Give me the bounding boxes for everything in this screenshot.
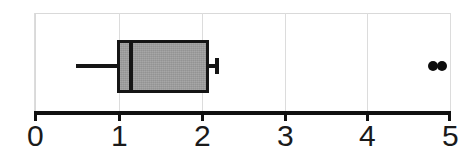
median-line <box>129 40 133 93</box>
x-axis-label-0: 0 <box>15 118 55 154</box>
x-axis-label-4: 4 <box>347 118 387 154</box>
outlier-point <box>437 61 447 71</box>
boxplot-figure: 0 1 2 3 4 5 <box>0 0 471 156</box>
gridline-4 <box>367 13 368 112</box>
x-axis-label-2: 2 <box>182 118 222 154</box>
gridline-0 <box>34 13 35 112</box>
gridline-3 <box>285 13 286 112</box>
x-axis-label-5: 5 <box>430 118 470 154</box>
plot-frame <box>35 13 451 112</box>
whisker-low-line <box>76 64 120 68</box>
x-axis-label-3: 3 <box>265 118 305 154</box>
gridline-5 <box>450 13 451 112</box>
whisker-high-cap <box>215 58 219 74</box>
x-axis-line <box>34 111 451 115</box>
x-axis-label-1: 1 <box>99 118 139 154</box>
